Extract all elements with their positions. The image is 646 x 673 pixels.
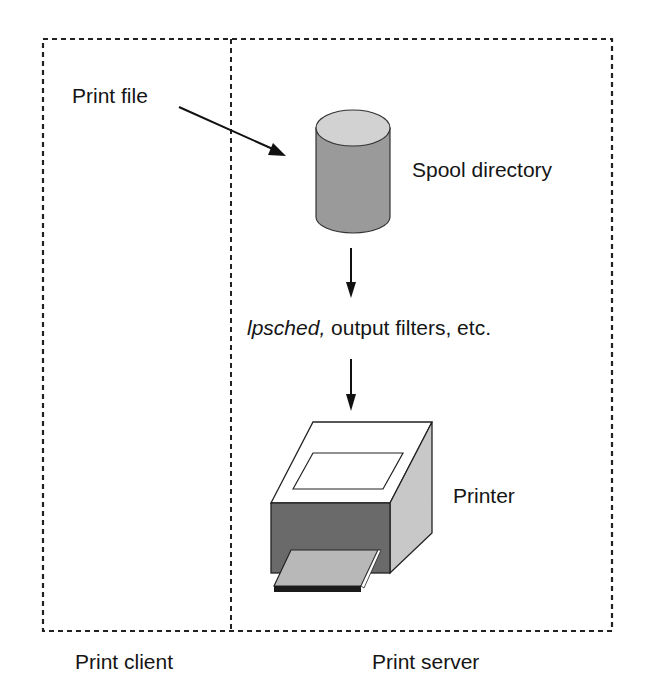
lpsched-filters-label: lpsched, output filters, etc. xyxy=(247,316,491,340)
spool-directory-cylinder-icon xyxy=(316,110,390,233)
output-filters-text: output filters, etc. xyxy=(325,316,491,339)
printer-icon xyxy=(271,422,432,592)
spool-directory-label: Spool directory xyxy=(412,158,552,182)
lpsched-text: lpsched, xyxy=(247,316,325,339)
print-file-label: Print file xyxy=(72,84,148,108)
arrow-print-file-to-spool xyxy=(179,107,286,156)
print-client-label: Print client xyxy=(75,650,173,673)
arrow-lpsched-to-printer xyxy=(346,359,356,411)
printer-label: Printer xyxy=(453,484,515,508)
print-server-label: Print server xyxy=(372,650,479,673)
arrow-spool-to-lpsched xyxy=(346,248,356,298)
